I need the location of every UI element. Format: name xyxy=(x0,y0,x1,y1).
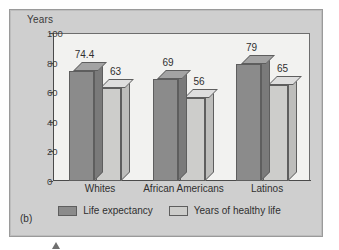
legend-swatch-icon-life-expectancy xyxy=(58,206,77,216)
bar-value-label: 69 xyxy=(162,57,173,68)
y-axis-tick-mark xyxy=(49,181,53,182)
chart-legend: Life expectancy Years of healthy life xyxy=(0,205,339,216)
y-axis-tick-mark xyxy=(49,33,53,34)
bar-front-face xyxy=(236,64,261,181)
x-axis-category-label: Whites xyxy=(85,183,116,194)
pointer-caret-icon xyxy=(52,242,60,249)
bar-front-face xyxy=(69,71,94,181)
bar-side-face xyxy=(205,89,214,181)
bar-value-label: 63 xyxy=(110,66,121,77)
figure-panel: Years 020406080100 74.46369567965 Whites… xyxy=(0,0,339,250)
figure-caption-label: (b) xyxy=(20,213,32,224)
y-axis-title: Years xyxy=(27,14,53,25)
legend-item-years-of-healthy-life[interactable]: Years of healthy life xyxy=(169,205,281,216)
bar-side-face xyxy=(261,55,270,181)
legend-swatch-icon-years-of-healthy-life xyxy=(169,206,188,216)
x-axis-category-label: African Americans xyxy=(143,183,224,194)
bar-value-label: 56 xyxy=(193,76,204,87)
legend-label-years-of-healthy-life: Years of healthy life xyxy=(194,205,281,216)
bar-value-label: 65 xyxy=(277,63,288,74)
x-axis-category-label: Latinos xyxy=(251,183,283,194)
bar-side-face xyxy=(121,79,130,181)
bar-value-label: 79 xyxy=(246,42,257,53)
y-axis-tick-mark xyxy=(49,92,53,93)
bar-side-face xyxy=(288,76,297,181)
y-axis-line xyxy=(53,33,54,181)
bar-front-face xyxy=(153,79,178,181)
y-axis-tick-mark xyxy=(49,63,53,64)
bar-side-face xyxy=(94,62,103,181)
legend-label-life-expectancy: Life expectancy xyxy=(83,205,153,216)
bar-life-expectancy xyxy=(153,79,178,181)
bar-side-face xyxy=(178,70,187,181)
bar-life-expectancy xyxy=(236,64,261,181)
bar-value-label: 74.4 xyxy=(75,49,94,60)
y-axis-tick-mark xyxy=(49,122,53,123)
y-axis-tick-mark xyxy=(49,151,53,152)
legend-item-life-expectancy[interactable]: Life expectancy xyxy=(58,205,153,216)
bar-life-expectancy xyxy=(69,71,94,181)
